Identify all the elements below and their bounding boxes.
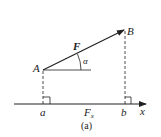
label-proj-b: b: [121, 106, 127, 118]
label-axis-x: x: [139, 105, 145, 117]
label-point-A: A: [32, 62, 40, 74]
right-angle-mark-b: [125, 97, 131, 104]
label-point-B: B: [127, 25, 134, 37]
figure-caption: (a): [81, 120, 92, 132]
force-projection-diagram: A B F α a b x Fx (a): [0, 0, 161, 137]
right-angle-mark-a: [43, 97, 50, 104]
label-projection-Fx: Fx: [83, 106, 95, 120]
angle-arc: [78, 54, 82, 70]
label-angle-alpha: α: [83, 56, 88, 66]
label-proj-a: a: [40, 106, 46, 118]
label-force-F: F: [72, 40, 81, 52]
